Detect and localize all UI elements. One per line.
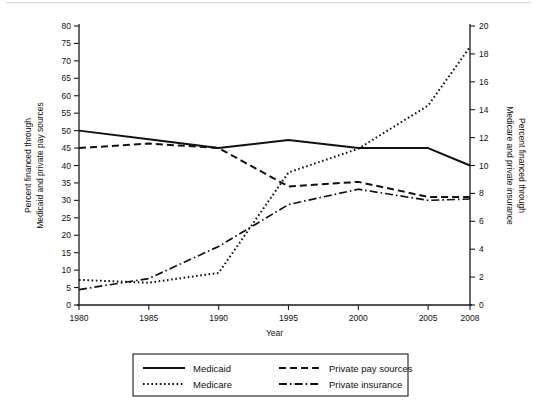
y-left-tick-label: 15 [62,248,72,258]
y-axis-right-title-line1: Percent financed through [517,118,527,213]
x-tick-label: 2000 [349,313,368,323]
y-left-tick-label: 0 [66,300,71,310]
y-left-tick-label: 40 [62,161,72,171]
y-left-tick-label: 50 [62,126,72,136]
axis-titles-group: YearPercent financed throughMedicaid and… [23,102,527,338]
legend-label-medicaid: Medicaid [193,363,231,374]
legend-label-private-insurance: Private insurance [329,379,402,390]
x-tick-label: 2008 [461,313,480,323]
series-group [79,47,470,290]
chart-legend: MedicaidPrivate pay sourcesMedicarePriva… [133,354,413,396]
y-axis-right: 02468101214161820 [470,21,489,310]
y-left-tick-label: 30 [62,195,72,205]
y-left-tick-label: 45 [62,143,72,153]
y-left-tick-label: 5 [66,283,71,293]
y-right-tick-label: 8 [479,188,484,198]
y-right-tick-label: 14 [479,105,489,115]
series-line-medicaid [79,131,470,166]
chart-canvas: 05101520253035404550556065707580 0246810… [0,0,537,404]
y-axis-left-title-line2: Medicaid and private pay sources [35,102,45,229]
y-axis-right-title-line2: Medicare and private insurance [505,106,515,225]
page-rule-decoration [6,2,531,3]
x-axis-title: Year [266,328,283,338]
y-left-tick-label: 10 [62,265,72,275]
y-right-tick-label: 12 [479,133,489,143]
x-tick-label: 1995 [279,313,298,323]
legend-label-medicare: Medicare [193,379,232,390]
legend-frame [133,354,408,396]
series-line-private-insurance [79,189,470,289]
y-right-tick-label: 0 [479,300,484,310]
legend-label-private-pay-sources: Private pay sources [329,363,413,374]
chart-figure: 05101520253035404550556065707580 0246810… [0,0,537,404]
y-left-tick-label: 35 [62,178,72,188]
y-right-tick-label: 4 [479,244,484,254]
x-tick-label: 1990 [209,313,228,323]
y-left-tick-label: 25 [62,213,72,223]
y-right-tick-label: 18 [479,49,489,59]
series-line-private-pay-sources [79,144,470,197]
y-left-tick-label: 60 [62,91,72,101]
y-right-tick-label: 10 [479,161,489,171]
y-left-tick-label: 80 [62,21,72,31]
y-left-tick-label: 20 [62,230,72,240]
y-left-tick-label: 70 [62,56,72,66]
y-axis-left: 05101520253035404550556065707580 [62,21,79,310]
y-left-tick-label: 75 [62,38,72,48]
y-right-tick-label: 16 [479,77,489,87]
x-tick-label: 1980 [70,313,89,323]
y-right-tick-label: 20 [479,21,489,31]
x-tick-label: 2005 [419,313,438,323]
x-axis: 1980198519901995200020052008 [70,305,480,323]
y-axis-left-title-line1: Percent financed through [23,118,33,213]
y-right-tick-label: 2 [479,272,484,282]
y-left-tick-label: 55 [62,108,72,118]
y-left-tick-label: 65 [62,73,72,83]
series-line-medicare [79,47,470,283]
x-tick-label: 1985 [139,313,158,323]
y-right-tick-label: 6 [479,216,484,226]
